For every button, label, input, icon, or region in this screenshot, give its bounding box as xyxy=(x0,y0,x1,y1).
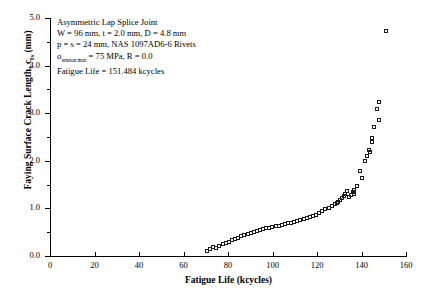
data-point-marker xyxy=(363,159,367,163)
annotation-line-title: Asymmetric Lap Splice Joint xyxy=(57,17,196,28)
x-tick-label: 0 xyxy=(35,261,65,270)
x-tick-label: 140 xyxy=(347,261,377,270)
y-tick-minor xyxy=(47,137,50,138)
data-point-marker xyxy=(355,184,359,188)
x-tick-mark xyxy=(406,252,407,257)
y-axis-label: Faying Surface Crack Length, cfs (mm) xyxy=(23,5,35,215)
x-tick-label: 20 xyxy=(80,261,110,270)
x-tick-mark xyxy=(184,252,185,257)
x-tick-label: 40 xyxy=(124,261,154,270)
x-tick-label: 100 xyxy=(258,261,288,270)
annotation-line-rivets: p = s = 24 mm, NAS 1097AD6-6 Rivets xyxy=(57,39,196,50)
data-point-marker xyxy=(358,169,362,173)
annotation-text-block: Asymmetric Lap Splice Joint W = 96 mm, t… xyxy=(57,17,196,77)
y-tick-mark xyxy=(45,208,50,209)
stress-value: = 75 MPa, R = 0.0 xyxy=(86,51,152,61)
data-point-marker xyxy=(368,150,372,154)
x-tick-mark xyxy=(317,252,318,257)
sigma-subscript: tension max xyxy=(62,56,87,62)
annotation-line-fatigue-life: Fatigue Life = 151.484 kcycles xyxy=(57,66,196,77)
figure-scatter-crack-growth: 0.01.02.03.04.05.0 020406080100120140160… xyxy=(0,0,429,299)
y-tick-mark xyxy=(45,161,50,162)
data-point-marker xyxy=(360,176,364,180)
data-point-marker xyxy=(372,125,376,129)
x-axis-label: Fatigue Life (kcycles) xyxy=(50,275,407,285)
data-point-marker xyxy=(377,118,381,122)
y-tick-mark xyxy=(45,18,50,19)
data-point-marker xyxy=(377,100,381,104)
data-point-marker xyxy=(375,107,379,111)
x-tick-mark xyxy=(95,252,96,257)
annotation-line-geometry: W = 96 mm, t = 2.0 mm, D = 4.8 mm xyxy=(57,28,196,39)
x-tick-mark xyxy=(228,252,229,257)
x-tick-mark xyxy=(50,252,51,257)
y-tick-mark xyxy=(45,66,50,67)
y-tick-label: 0.0 xyxy=(0,251,40,260)
data-point-marker xyxy=(370,140,374,144)
x-tick-mark xyxy=(362,252,363,257)
x-tick-label: 60 xyxy=(169,261,199,270)
x-tick-label: 80 xyxy=(213,261,243,270)
y-tick-minor xyxy=(47,42,50,43)
y-tick-minor xyxy=(47,232,50,233)
x-tick-mark xyxy=(273,252,274,257)
x-tick-label: 160 xyxy=(391,261,421,270)
data-point-marker xyxy=(365,154,369,158)
data-point-marker xyxy=(352,192,356,196)
y-axis-label-unit: (mm) xyxy=(23,30,33,55)
y-axis-label-main: Faying Surface Crack Length, c xyxy=(23,60,33,190)
data-point-marker xyxy=(384,29,388,33)
y-axis-label-subscript: fs xyxy=(28,55,35,60)
annotation-line-stress: σtension max = 75 MPa, R = 0.0 xyxy=(57,51,196,66)
x-tick-mark xyxy=(139,252,140,257)
y-tick-mark xyxy=(45,113,50,114)
y-tick-minor xyxy=(47,185,50,186)
x-tick-label: 120 xyxy=(302,261,332,270)
y-tick-minor xyxy=(47,89,50,90)
